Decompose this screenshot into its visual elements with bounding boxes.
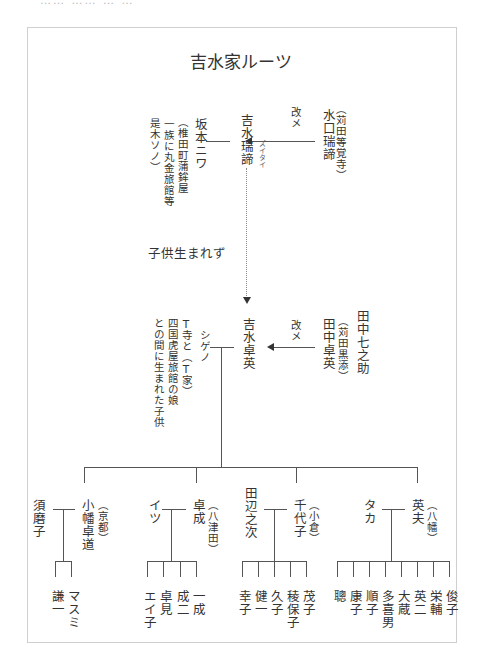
child-4-marriage-line bbox=[382, 509, 405, 510]
grandchild-drop bbox=[385, 561, 386, 577]
rename-arrow-line-2 bbox=[273, 347, 315, 348]
child-4-name: 英夫 bbox=[409, 499, 423, 525]
grandchild: 英二 bbox=[411, 590, 425, 616]
arrow-down-icon bbox=[243, 297, 251, 304]
marriage-line-2 bbox=[210, 347, 234, 348]
child-3-marriage-line bbox=[264, 509, 287, 510]
rename-label-2: 改メ bbox=[289, 320, 301, 342]
child-4-note: （八幡） bbox=[425, 500, 437, 544]
child-1-name: 小幡卓道 bbox=[79, 499, 93, 551]
spouse-note-1c: 是木ソノ） bbox=[148, 118, 160, 173]
child-3-spouse: 田辺之次 bbox=[242, 487, 256, 539]
spouse-note-2c: との間に生まれた子供 bbox=[152, 318, 164, 428]
grandchild: 順子 bbox=[363, 590, 377, 616]
grandchild: 聰 bbox=[331, 590, 345, 603]
grandchild: 栄輔 bbox=[427, 590, 441, 616]
no-children-note: 子供生まれず bbox=[148, 243, 226, 262]
child-2-spouse: イツ bbox=[146, 499, 160, 525]
child-1-kids-bar bbox=[55, 561, 72, 562]
child-2-marriage-line bbox=[162, 509, 186, 510]
drop-line-4 bbox=[417, 467, 418, 483]
grandchild: 卓見 bbox=[157, 590, 171, 616]
descent-line-2 bbox=[221, 347, 222, 467]
grandchild-drop bbox=[449, 561, 450, 577]
grandchild-drop bbox=[369, 561, 370, 577]
grandchild: 一成 bbox=[190, 590, 204, 616]
grandchild-drop bbox=[290, 561, 291, 577]
grandchild-drop bbox=[242, 561, 243, 577]
child-2-kids-bar bbox=[147, 561, 197, 562]
origin-note-2: （苅田黒添） bbox=[336, 316, 348, 382]
grandchild: 大蔵 bbox=[395, 590, 409, 616]
grandchild-drop bbox=[417, 561, 418, 577]
grandchild: マスミ bbox=[65, 590, 79, 629]
sibling-bar bbox=[84, 467, 418, 468]
grandchild: 健一 bbox=[252, 590, 266, 616]
child-1-note: （京都） bbox=[96, 500, 108, 544]
diagram-title: 吉水家ルーツ bbox=[0, 48, 481, 73]
grandchild-drop bbox=[147, 561, 148, 577]
spouse-name-1: 坂本ニワ bbox=[192, 118, 206, 170]
spouse-note-2b: 四国虎屋旅館の娘 bbox=[166, 318, 178, 406]
grandchild: 久子 bbox=[268, 590, 282, 616]
main-name-2: 吉水卓英 bbox=[240, 318, 254, 370]
grandchild-drop bbox=[401, 561, 402, 577]
main-name-1: 吉水瑞諦 bbox=[238, 114, 252, 166]
grandchild: 多喜男 bbox=[379, 590, 393, 629]
grandchild-drop bbox=[337, 561, 338, 577]
child-3-descent bbox=[274, 509, 275, 561]
adoption-dotted-line bbox=[246, 168, 247, 298]
child-2-name: 卓成 bbox=[190, 499, 204, 525]
drop-line-1 bbox=[84, 467, 85, 483]
grandchild-drop bbox=[163, 561, 164, 577]
origin-name-1: 水口瑞諦 bbox=[320, 109, 334, 161]
arrow-left-icon bbox=[267, 343, 274, 351]
cropped-header-text: …… …… … … bbox=[40, 0, 135, 7]
grandchild-drop bbox=[180, 561, 181, 577]
spouse-note-1b: 一族に丸金旅館等 bbox=[162, 119, 174, 207]
spouse-note-2a: T寺と（T家） bbox=[180, 318, 192, 397]
drop-line-3 bbox=[296, 467, 297, 483]
child-2-descent bbox=[171, 509, 172, 561]
child-1-spouse: 須磨子 bbox=[30, 499, 44, 538]
child-4-spouse: タカ bbox=[361, 499, 375, 525]
grandchild: 謙一 bbox=[49, 590, 63, 616]
child-4-descent bbox=[391, 509, 392, 561]
child-3-note: （小倉） bbox=[307, 500, 319, 544]
grandchild: 茂子 bbox=[300, 590, 314, 616]
rename-label-1: 改メ bbox=[289, 107, 301, 129]
origin-note-1: （苅田等覚寺） bbox=[334, 104, 346, 181]
origin-name-2b: 田中卓英 bbox=[320, 318, 334, 370]
child-1-marriage-line bbox=[53, 509, 75, 510]
main-reading-1: ズイタイ bbox=[258, 140, 266, 168]
grandchild-drop bbox=[71, 561, 72, 577]
grandchild: 稜保子 bbox=[284, 590, 298, 629]
grandchild: 康子 bbox=[347, 590, 361, 616]
grandchild: 幸子 bbox=[236, 590, 250, 616]
grandchild-drop bbox=[433, 561, 434, 577]
drop-line-2 bbox=[196, 467, 197, 483]
grandchild: 成二 bbox=[174, 590, 188, 616]
spouse-name-2: シゲノ bbox=[198, 330, 210, 363]
origin-name-2a: 田中七之助 bbox=[354, 310, 368, 375]
child-2-note: （八津田） bbox=[206, 500, 218, 555]
marriage-line-1 bbox=[206, 141, 230, 142]
grandchild-drop bbox=[274, 561, 275, 577]
grandchild-drop bbox=[55, 561, 56, 577]
grandchild-drop bbox=[196, 561, 197, 577]
child-1-descent bbox=[63, 509, 64, 561]
grandchild: エイ子 bbox=[141, 590, 155, 629]
grandchild: 俊子 bbox=[443, 590, 457, 616]
grandchild-drop bbox=[353, 561, 354, 577]
grandchild-drop bbox=[258, 561, 259, 577]
spouse-note-1a: （椎田町蒲鉾屋 bbox=[176, 117, 188, 194]
child-3-name: 千代子 bbox=[291, 499, 305, 538]
grandchild-drop bbox=[306, 561, 307, 577]
